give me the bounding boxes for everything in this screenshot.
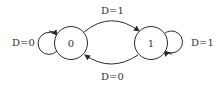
transition-label-1-1: D=1 — [191, 37, 214, 48]
transition-label-0-1: D=1 — [101, 5, 124, 16]
self-loop-0: D=0 — [12, 31, 58, 54]
state-1-label: 1 — [148, 38, 154, 49]
state-0-label: 0 — [68, 38, 74, 49]
transition-label-0-0: D=0 — [12, 37, 35, 48]
transition-1-to-0: D=0 — [85, 55, 138, 82]
state-diagram: D=0 D=1 D=1 D=0 0 1 — [0, 0, 222, 85]
state-1: 1 — [135, 27, 168, 60]
self-loop-1: D=1 — [163, 31, 214, 54]
transition-label-1-0: D=0 — [101, 71, 124, 82]
transition-0-to-1: D=1 — [84, 5, 139, 32]
state-0: 0 — [55, 27, 88, 60]
arc-1-to-0-arrow-icon — [85, 55, 138, 64]
arc-0-to-1-arrow-icon — [84, 21, 139, 32]
